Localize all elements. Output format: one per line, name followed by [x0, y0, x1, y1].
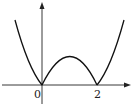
x-axis-arrow-icon [124, 83, 131, 88]
curve-right-branch [97, 20, 124, 85]
origin-label: 0 [34, 88, 41, 101]
curve-middle-hump [42, 57, 97, 86]
curve-left-branch [15, 20, 42, 85]
y-axis-arrow-icon [40, 2, 45, 9]
function-graph: 0 2 [0, 0, 135, 105]
x-tick-label-2: 2 [94, 88, 101, 101]
